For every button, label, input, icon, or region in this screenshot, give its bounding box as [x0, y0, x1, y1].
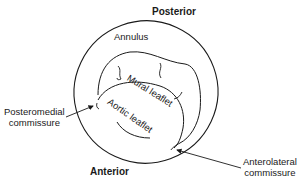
posteromedial-line1: Posteromedial — [4, 106, 65, 117]
mural-scallop-2 — [160, 63, 161, 78]
anterolateral-arrow — [177, 150, 241, 168]
posterior-label: Posterior — [152, 6, 196, 17]
posteromedial-line2: commissure — [4, 117, 65, 128]
anterolateral-commissure-label: Anterolateral commissure — [243, 156, 297, 178]
annulus-label: Annulus — [114, 31, 148, 42]
posteromedial-commissure-label: Posteromedial commissure — [4, 106, 65, 128]
posteromedial-arrow — [66, 106, 93, 117]
anterolateral-line2: commissure — [243, 167, 297, 178]
posteromedial-commissure-mark — [97, 103, 99, 109]
aortic-leaflet-outline — [98, 82, 184, 148]
anterior-label: Anterior — [90, 166, 129, 177]
anterolateral-line1: Anterolateral — [243, 156, 297, 167]
mural-scallop-1 — [117, 66, 121, 80]
